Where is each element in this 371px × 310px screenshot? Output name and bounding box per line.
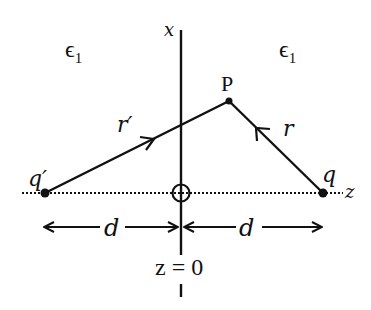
z-axis-label: z — [344, 181, 355, 202]
region-left-permittivity: ϵ1 — [65, 36, 82, 66]
charge-point — [319, 189, 328, 198]
x-axis-label: x — [164, 19, 174, 40]
charge-label: q — [322, 162, 336, 187]
left-distance-label: d — [104, 214, 119, 242]
r-prime-label: r′ — [117, 112, 133, 137]
r-vector — [229, 101, 323, 193]
r-label: r — [283, 116, 295, 141]
image-charge-label: q′ — [28, 166, 47, 191]
region-right-permittivity: ϵ1 — [279, 36, 296, 66]
r-prime-vector — [45, 101, 229, 193]
origin-label: z = 0 — [155, 254, 203, 280]
right-distance-label: d — [239, 214, 254, 242]
field-point-label: P — [221, 71, 233, 96]
field-point — [226, 98, 233, 105]
image-charge-diagram: ϵ1 ϵ1 x z P q′ q r′ r d d z = 0 — [0, 0, 371, 310]
